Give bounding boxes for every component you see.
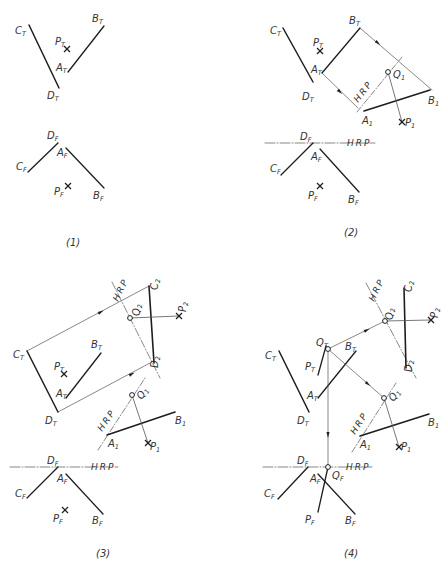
point-label-dt: DT (45, 415, 58, 428)
point-label-af: AF (310, 151, 322, 164)
point-label-p1: P1 (150, 441, 160, 454)
point-p-front-cross-icon (62, 507, 68, 513)
point-label-c2: C2 (403, 281, 416, 292)
point-label-at: AT (55, 62, 68, 75)
panel-caption-4: (4) (344, 548, 358, 559)
point-label-d2: D2 (403, 360, 416, 372)
line-p-top (318, 346, 326, 375)
line-ab-top (322, 28, 360, 73)
point-label-at: AT (55, 388, 68, 401)
point-label-ct: CT (270, 25, 282, 38)
hrp-label: HRP (348, 410, 370, 436)
panel-caption-1: (1) (66, 237, 80, 248)
point-label-bf: BF (345, 515, 356, 528)
point-label-cf: CF (264, 488, 275, 501)
line-cd-top (283, 28, 313, 82)
point-label-cf: CF (270, 163, 281, 176)
point-label-pt: PT (54, 361, 65, 374)
arrow-b-proj-arrowhead-icon (375, 40, 381, 45)
point-label-p2: P2 (429, 308, 442, 318)
line-cd-front (281, 143, 313, 175)
figure-svg: CTBTPTATDTDFAFCFPFBF CTBTPTATDTQ1B1A1P1D… (0, 0, 445, 563)
panel-4: QTBTCTPTATDTDFQFAFCFPFBFA1B1P1C2P2Q2D2Q1… (263, 277, 442, 528)
point-label-d2: D2 (149, 356, 162, 368)
hrp-label: HRP (346, 462, 370, 472)
point-label-p1: P1 (401, 441, 411, 454)
point-label-at: AT (310, 64, 323, 77)
point-label-b1: B1 (175, 415, 186, 428)
point-label-b1: B1 (428, 417, 439, 430)
hrp-label: HRP (111, 277, 131, 303)
point-label-ct: CT (15, 25, 27, 38)
panel-caption-2: (2) (344, 227, 358, 238)
line-c2-d2 (149, 286, 154, 363)
point-q1-circle-icon (386, 70, 391, 75)
panel-caption-3: (3) (96, 548, 110, 559)
line-a1-b1 (107, 412, 175, 435)
point-label-qf: QF (332, 470, 344, 483)
line-ab-top (68, 26, 104, 72)
point-label-pt: PT (313, 37, 324, 50)
arrow-qf-proj-arrowhead-icon (327, 432, 330, 438)
hrp-label: HRP (95, 407, 117, 433)
line-ab-front (320, 149, 359, 192)
point-label-bf: BF (92, 515, 103, 528)
point-label-q2: Q2 (384, 308, 397, 320)
point-label-q1: Q1 (386, 387, 403, 404)
point-label-bt: BT (92, 13, 104, 26)
point-label-df: DF (300, 131, 312, 144)
point-label-pf: PF (53, 513, 63, 526)
point-label-ct: CT (265, 350, 277, 363)
point-label-q2: Q2 (131, 304, 144, 316)
point-label-p1: P1 (405, 117, 415, 130)
point-label-q1: Q1 (134, 385, 151, 402)
line-ab-front (66, 148, 104, 188)
point-label-bf: BF (93, 190, 104, 203)
projector-d (58, 363, 150, 412)
point-label-pf: PF (308, 190, 318, 203)
point-label-cf: CF (15, 488, 26, 501)
descriptive-geometry-figure: CTBTPTATDTDFAFCFPFBF CTBTPTATDTQ1B1A1P1D… (0, 0, 445, 563)
point-label-at: AT (306, 390, 319, 403)
line-a1-b1 (364, 90, 430, 111)
point-label-pt: PT (305, 361, 316, 374)
point-label-q1: Q1 (393, 69, 405, 82)
line-cd-front (28, 143, 58, 172)
arrow-q2-proj-arrowhead-icon (364, 329, 370, 333)
point-label-pf: PF (54, 186, 64, 199)
point-p-front-cross-icon (317, 183, 323, 189)
point-label-p2: P2 (177, 302, 190, 312)
point-label-ct: CT (13, 349, 25, 362)
line-p-front (318, 467, 328, 512)
point-label-qt: QT (316, 337, 329, 350)
panel-2: CTBTPTATDTQ1B1A1P1DFAFCFPFBFHRPHRP (265, 15, 439, 207)
point-label-bt: BT (345, 341, 357, 354)
point-label-a1: A1 (107, 438, 119, 451)
panel-3: CTBTPTATDTDFAFCFPFBFA1B1P1C2P2Q2D2Q1HRPH… (10, 277, 190, 528)
point-label-df: DF (47, 130, 59, 143)
point-label-b1: B1 (428, 95, 439, 108)
panel-1: CTBTPTATDTDFAFCFPFBF (15, 13, 104, 203)
line-ab-top (318, 351, 356, 398)
point-label-c2: C2 (149, 279, 162, 290)
point-label-dt: DT (302, 91, 315, 104)
point-label-pt: PT (55, 36, 66, 49)
hrp-label: HRP (347, 138, 371, 148)
point-label-dt: DT (297, 415, 310, 428)
projector-a (322, 73, 358, 108)
point-label-bt: BT (349, 15, 361, 28)
projector-qt-q1 (328, 349, 384, 398)
point-label-a1: A1 (361, 115, 373, 128)
line-cd-front (278, 467, 308, 499)
hrp-label: HRP (352, 79, 375, 104)
projector-q1-p1 (384, 398, 399, 447)
hrp-label: HRP (91, 462, 115, 472)
point-label-a1: A1 (359, 439, 371, 452)
point-label-pf: PF (305, 514, 315, 527)
arrow-c-proj-arrowhead-icon (98, 311, 104, 315)
point-label-df: DF (297, 455, 309, 468)
line-cd-front (27, 467, 58, 498)
point-p-front-cross-icon (65, 183, 71, 189)
line-cd-top (29, 25, 59, 88)
arrow-d-proj-arrowhead-icon (129, 373, 135, 377)
